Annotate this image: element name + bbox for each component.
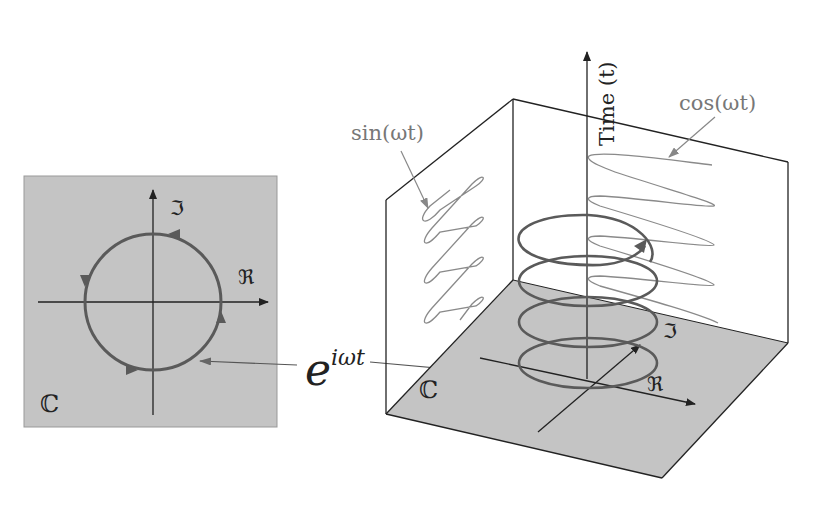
sin-wave [423,177,484,323]
cos-label: cos(ωt) [679,91,756,115]
sin-label: sin(ωt) [351,121,424,145]
cos-pointer-arrow [669,117,715,157]
complex-plane-2d: ℑ ℜ ℂ [24,176,277,427]
complex-set-label: ℂ [40,390,59,418]
helix-turn-4 [519,215,653,265]
real-axis-label: ℜ [238,265,255,289]
diagram-canvas: ℑ ℜ ℂ e iωt [0,0,815,506]
imag-axis-label-3d: ℑ [663,319,677,343]
sin-pointer-arrow [401,151,428,208]
left-wall-top-edge [386,99,513,200]
imag-axis-label: ℑ [170,196,184,220]
complex-plane-3d: ℂ ℜ ℑ Time (t) sin(ωt) cos(ωt) [351,52,788,478]
exp-exponent: iωt [331,345,365,370]
complex-set-label-3d: ℂ [419,376,438,404]
exp-base: e [305,344,331,395]
time-axis-label: Time (t) [595,61,619,146]
real-axis-label-3d: ℜ [647,372,664,396]
